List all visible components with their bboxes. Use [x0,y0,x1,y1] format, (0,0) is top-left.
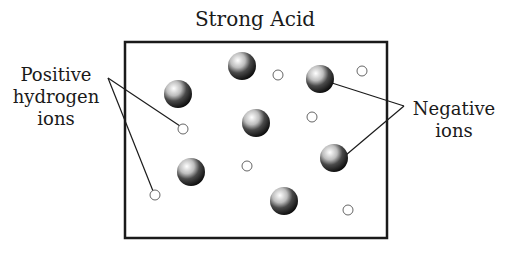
hydrogen-ion-circle [357,66,367,76]
negative-ion-sphere [320,144,348,172]
hydrogen-ion-circle [307,112,317,122]
negative-ions [164,52,348,215]
hydrogen-ion-circle [178,124,188,134]
negative-ion-sphere [164,80,192,108]
hydrogen-ion-circle [150,190,160,200]
hydrogen-ion-circle [343,205,353,215]
negative-ion-leader-lines [332,83,404,155]
negative-ions-label: Negative ions [402,98,506,142]
negative-ion-sphere [228,52,256,80]
diagram-title: Strong Acid [150,8,360,30]
hydrogen-ion-circle [242,161,252,171]
hydrogen-ion-circle [273,70,283,80]
label-line: Positive [0,64,112,86]
negative-ion-sphere [177,158,205,186]
positive-hydrogen-ions-label: Positive hydrogen ions [0,64,112,130]
label-line: ions [0,108,112,130]
negative-ion-sphere [242,109,270,137]
label-line: ions [402,120,506,142]
negative-ion-sphere [306,65,334,93]
negative-ion-sphere [270,187,298,215]
label-line: Negative [402,98,506,120]
label-line: hydrogen [0,86,112,108]
